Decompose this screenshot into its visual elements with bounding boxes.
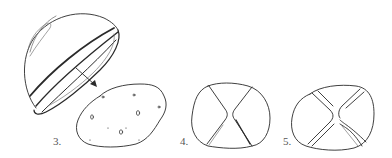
illustration-canvas: 3. 4. 5.	[0, 0, 392, 158]
step-4-label: 4.	[180, 136, 188, 147]
step-3-label: 3.	[53, 136, 61, 147]
step-5-label: 5.	[283, 136, 291, 147]
rounded-square-x-crease-icon	[292, 85, 374, 150]
